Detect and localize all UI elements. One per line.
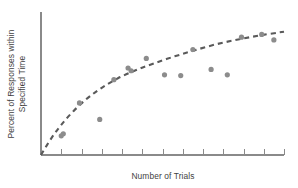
data-point bbox=[129, 68, 134, 73]
data-point bbox=[77, 100, 82, 105]
data-point bbox=[162, 72, 167, 77]
data-point bbox=[97, 117, 102, 122]
scatter-plot: Percent of Responses within Specified Ti… bbox=[0, 0, 298, 188]
data-point bbox=[239, 35, 244, 40]
x-axis-label: Number of Trials bbox=[131, 171, 194, 181]
chart-figure: Percent of Responses within Specified Ti… bbox=[0, 0, 298, 188]
y-axis-label-line1: Percent of Responses within bbox=[6, 29, 16, 138]
data-point bbox=[111, 77, 116, 82]
data-point bbox=[190, 47, 195, 52]
data-point bbox=[61, 131, 66, 136]
data-point bbox=[271, 37, 276, 42]
data-points bbox=[59, 32, 277, 139]
data-point bbox=[259, 32, 264, 37]
chart-axes bbox=[41, 12, 284, 155]
trend-curve bbox=[41, 32, 284, 155]
x-axis-ticks bbox=[62, 149, 285, 155]
data-point bbox=[144, 56, 149, 61]
y-axis-label-line2: Specified Time bbox=[17, 56, 27, 113]
y-axis-label: Percent of Responses within Specified Ti… bbox=[6, 29, 27, 138]
data-point bbox=[209, 67, 214, 72]
data-point bbox=[225, 72, 230, 77]
data-point bbox=[178, 73, 183, 78]
